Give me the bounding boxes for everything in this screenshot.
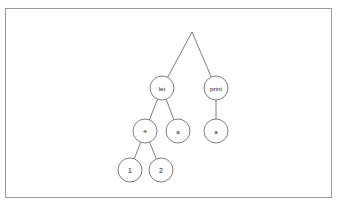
- tree-edge-plus-to-two: [150, 142, 157, 159]
- tree-edge-root-to-let: [168, 32, 192, 77]
- tree-edge-root-to-print: [192, 32, 211, 77]
- tree-nodes-group: letprint+aa12: [118, 76, 228, 182]
- tree-node-print[interactable]: print: [204, 76, 228, 100]
- tree-node-plus[interactable]: +: [133, 119, 157, 143]
- tree-node-a2[interactable]: a: [204, 119, 228, 143]
- tree-edge-let-to-plus: [149, 99, 157, 120]
- node-label-a2: a: [214, 128, 218, 135]
- node-label-let: let: [159, 85, 166, 92]
- node-label-two: 2: [159, 167, 163, 174]
- ast-tree-canvas: letprint+aa12: [0, 0, 338, 211]
- tree-edge-let-to-a1: [166, 99, 174, 120]
- figure-root: letprint+aa12: [0, 0, 338, 211]
- node-label-one: 1: [128, 167, 132, 174]
- tree-node-let[interactable]: let: [150, 76, 174, 100]
- tree-edge-plus-to-one: [134, 142, 140, 159]
- tree-node-one[interactable]: 1: [118, 158, 142, 182]
- node-label-print: print: [210, 85, 222, 92]
- tree-node-a1[interactable]: a: [166, 119, 190, 143]
- tree-node-two[interactable]: 2: [149, 158, 173, 182]
- node-label-a1: a: [176, 128, 180, 135]
- node-label-plus: +: [143, 127, 148, 136]
